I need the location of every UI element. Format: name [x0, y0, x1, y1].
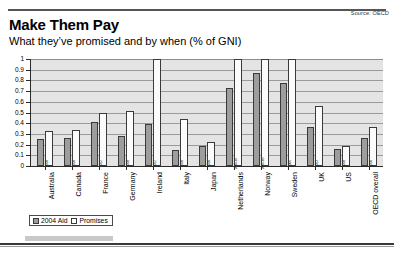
bar-promise: 2004-07 [234, 59, 242, 166]
x-axis-label: France [102, 172, 109, 194]
x-axis-tick [180, 166, 181, 170]
y-axis-label: 0.7 [8, 87, 24, 94]
bar-promise: 2010 [180, 119, 188, 166]
x-axis-label: Germany [129, 172, 136, 201]
y-axis-tick [26, 102, 30, 103]
bar-series-layer: 20102010201220102012201020102004-072006-… [31, 59, 382, 166]
bar-year-label: 2006 [288, 159, 291, 166]
y-axis-tick [26, 123, 30, 124]
bar-aid [172, 150, 180, 166]
x-axis-label: Ireland [156, 172, 163, 193]
x-axis-tick [153, 166, 154, 170]
y-axis-label: 1 [8, 55, 24, 62]
bar-group: 2012 [139, 59, 166, 166]
bar-promise: 2012 [153, 59, 161, 166]
chart-page: Make Them Pay What they’ve promised and … [0, 0, 394, 265]
y-axis-label: 0.6 [8, 98, 24, 105]
x-axis-tick [261, 166, 262, 170]
bar-aid [226, 88, 234, 166]
bar-group: 2010 [58, 59, 85, 166]
bar-aid [37, 139, 45, 166]
x-axis-tick [234, 166, 235, 170]
bar-aid [334, 149, 342, 166]
bar-group: 2010 [166, 59, 193, 166]
bar-year-label: 2010 [180, 159, 183, 166]
bar-aid [199, 146, 207, 166]
bar-promise: 2010 [126, 111, 134, 166]
x-axis-label: US [345, 172, 352, 182]
bar-year-label: 2004-07 [234, 157, 237, 169]
bar-promise: 2012 [99, 113, 107, 167]
y-axis-tick [26, 113, 30, 114]
y-axis-tick [26, 145, 30, 146]
bar-group: 2006 [274, 59, 301, 166]
x-axis-label: UK [318, 172, 325, 182]
bar-group: 2012 [85, 59, 112, 166]
bar-group: 2010 [112, 59, 139, 166]
x-axis-label: Norway [264, 172, 271, 196]
x-axis-label: Japan [210, 172, 217, 191]
legend-swatch-promises [71, 218, 77, 224]
bar-group: 2004-07 [220, 59, 247, 166]
bar-promise: 2010 [369, 127, 377, 166]
legend-label-promises: Promises [79, 216, 107, 225]
bar-year-label: 2012 [99, 159, 102, 166]
y-axis-tick [26, 80, 30, 81]
bar-aid [361, 138, 369, 166]
bar-group: 2010 [31, 59, 58, 166]
x-axis-label: OECD overall [372, 172, 379, 215]
legend-item-aid: 2004 Aid [33, 216, 67, 225]
bar-group: 2006-09 [247, 59, 274, 166]
y-axis-label: 0.4 [8, 119, 24, 126]
bar-year-label: 2010 [45, 159, 48, 166]
bar-aid [145, 124, 153, 166]
legend-swatch-aid [33, 218, 39, 224]
bar-promise: 2010 [72, 130, 80, 166]
y-axis-tick [26, 155, 30, 156]
x-axis-label: Sweden [291, 172, 298, 197]
bar-group: 2010 [193, 59, 220, 166]
bar-year-label: 2010 [369, 159, 372, 166]
y-axis-tick [26, 134, 30, 135]
y-axis-tick [26, 91, 30, 92]
y-axis-label: 0.1 [8, 151, 24, 158]
bar-year-label: 2010 [72, 159, 75, 166]
x-axis-tick [99, 166, 100, 170]
y-axis-label: 0.8 [8, 76, 24, 83]
x-axis-tick [369, 166, 370, 170]
bar-aid [307, 127, 315, 166]
bar-promise: 2013 [315, 106, 323, 166]
x-axis-tick [288, 166, 289, 170]
y-axis-label: 0.5 [8, 109, 24, 116]
legend-label-aid: 2004 Aid [41, 216, 67, 225]
bar-aid [253, 73, 261, 166]
bar-year-label: 2006-09 [261, 157, 264, 169]
bar-promise: 2006 [288, 59, 296, 166]
bar-year-label: 2013 [315, 159, 318, 166]
x-axis-tick [72, 166, 73, 170]
y-axis-label: 0.2 [8, 141, 24, 148]
bar-year-label: 2012 [153, 159, 156, 166]
bar-group: 2010 [355, 59, 382, 166]
bar-group: 2010 [328, 59, 355, 166]
bar-aid [280, 83, 288, 166]
x-axis-tick [342, 166, 343, 170]
chart-legend: 2004 Aid Promises [29, 215, 113, 226]
page-artifact [25, 236, 113, 241]
bar-promise: 2010 [342, 146, 350, 166]
bar-year-label: 2010 [342, 159, 345, 166]
x-axis-tick [45, 166, 46, 170]
bar-aid [91, 122, 99, 166]
x-axis-label: Italy [183, 172, 190, 185]
y-axis-label: 0.9 [8, 66, 24, 73]
bar-promise: 2006-09 [261, 59, 269, 166]
bar-year-label: 2010 [126, 159, 129, 166]
y-axis-label: 0 [8, 162, 24, 169]
y-axis-label: 0.3 [8, 130, 24, 137]
bar-promise: 2010 [45, 131, 53, 166]
bar-aid [64, 138, 72, 166]
x-axis-label: Canada [75, 172, 82, 197]
bar-year-label: 2010 [207, 159, 210, 166]
bar-promise: 2010 [207, 142, 215, 166]
bar-chart: 00.10.20.30.40.50.60.70.80.91 2010201020… [0, 0, 394, 265]
